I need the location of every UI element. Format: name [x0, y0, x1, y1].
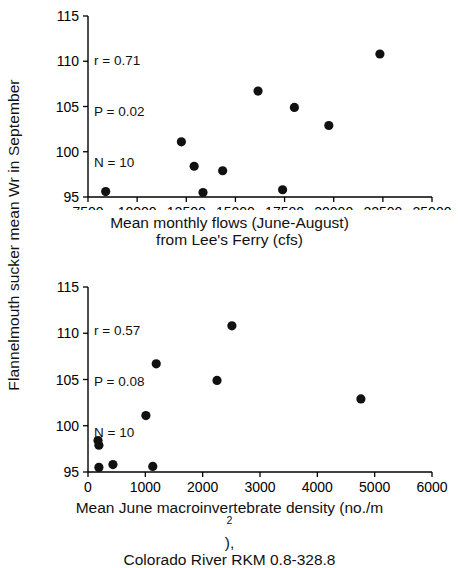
data-point [190, 162, 199, 171]
x-axis-caption-top-line2: from Lee's Ferry (cfs) [0, 231, 459, 248]
y-tick-label: 115 [57, 279, 80, 295]
data-point [375, 49, 384, 58]
x-tick-label: 4000 [302, 479, 333, 495]
stat-p-top: P = 0.02 [94, 103, 144, 120]
x-axis-caption-bottom: Mean June macroinvertebrate density (no.… [0, 499, 459, 568]
x-tick-label: 2000 [187, 479, 218, 495]
y-tick-label: 95 [63, 189, 79, 205]
x-tick-label: 6000 [416, 479, 447, 495]
x-tick-label: 3000 [244, 479, 275, 495]
caption-post: ), [0, 534, 459, 551]
data-point [227, 321, 236, 330]
data-point [148, 462, 157, 471]
data-point [290, 103, 299, 112]
y-tick-label: 105 [56, 372, 80, 388]
y-tick-label: 95 [63, 464, 79, 480]
y-tick-label: 105 [56, 99, 80, 115]
y-tick-label: 100 [56, 418, 80, 434]
caption-superscript: 2 [227, 514, 233, 526]
x-tick-label: 22500 [363, 204, 402, 210]
y-tick-label: 100 [56, 144, 80, 160]
x-axis-caption-top-line1: Mean monthly flows (June-August) [0, 214, 459, 231]
data-point [356, 394, 365, 403]
data-point [324, 121, 333, 130]
data-point [177, 137, 186, 146]
stat-r-top: r = 0.71 [94, 52, 144, 69]
data-point [278, 185, 287, 194]
x-axis-caption-top: Mean monthly flows (June-August) from Le… [0, 214, 459, 249]
chart-panel-bottom: 951001051101150100020003000400050006000 … [0, 270, 459, 564]
stats-annotation-top: r = 0.71 P = 0.02 N = 10 [94, 18, 144, 205]
x-axis-caption-bottom-line2: Colorado River RKM 0.8-328.8 [0, 551, 459, 568]
scatter-plot-bottom: 951001051101150100020003000400050006000 [0, 270, 459, 495]
x-tick-label: 0 [84, 479, 92, 495]
y-tick-label: 115 [57, 8, 80, 24]
data-point [212, 376, 221, 385]
stat-p-bottom: P = 0.08 [94, 373, 144, 390]
x-axis-caption-bottom-line1: Mean June macroinvertebrate density (no.… [0, 499, 459, 551]
data-point [198, 188, 207, 197]
stat-r-bottom: r = 0.57 [94, 322, 144, 339]
stats-annotation-bottom: r = 0.57 P = 0.08 N = 10 [94, 288, 144, 475]
x-tick-label: 20000 [314, 204, 353, 210]
data-point [152, 359, 161, 368]
x-tick-label: 1000 [130, 479, 161, 495]
scatter-plot-top: 9510010511011575001000012500150001750020… [0, 0, 459, 210]
y-tick-label: 110 [57, 325, 80, 341]
x-tick-label: 12500 [167, 204, 206, 210]
x-tick-label: 17500 [265, 204, 304, 210]
stat-n-top: N = 10 [94, 154, 144, 171]
data-point [218, 166, 227, 175]
y-tick-label: 110 [57, 53, 80, 69]
x-tick-label: 5000 [359, 479, 390, 495]
stat-n-bottom: N = 10 [94, 424, 144, 441]
data-point [253, 87, 262, 96]
chart-panel-top: 9510010511011575001000012500150001750020… [0, 0, 459, 250]
x-tick-label: 15000 [216, 204, 255, 210]
x-tick-label: 25000 [413, 204, 452, 210]
